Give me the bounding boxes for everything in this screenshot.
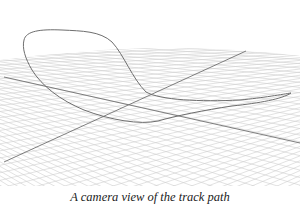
camera-view-scene <box>0 0 300 186</box>
figure: A camera view of the track path <box>0 0 300 206</box>
figure-caption: A camera view of the track path <box>0 190 300 205</box>
